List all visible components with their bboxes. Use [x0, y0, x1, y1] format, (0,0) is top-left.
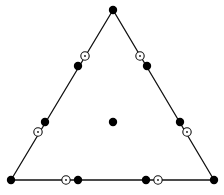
open-node-right-open-2 — [183, 128, 191, 136]
open-node-right-open-1 — [136, 52, 144, 60]
filled-node-bottom-2 — [142, 176, 150, 184]
filled-node-v-right — [210, 176, 218, 184]
filled-node-left-2 — [41, 118, 49, 126]
filled-node-bottom-1 — [74, 176, 82, 184]
open-node-bottom-open-1 — [62, 176, 70, 184]
triangle-outline — [11, 10, 214, 180]
filled-node-v-top — [109, 6, 117, 14]
filled-node-right-2 — [176, 118, 184, 126]
open-node-left-open-1 — [81, 52, 89, 60]
filled-node-center — [109, 118, 117, 126]
filled-node-right-1 — [143, 62, 151, 70]
filled-nodes — [7, 6, 218, 184]
filled-node-left-1 — [74, 62, 82, 70]
open-node-left-open-2 — [34, 128, 42, 136]
triangle-diagram — [0, 0, 224, 195]
open-node-bottom-open-2 — [154, 176, 162, 184]
filled-node-v-left — [7, 176, 15, 184]
